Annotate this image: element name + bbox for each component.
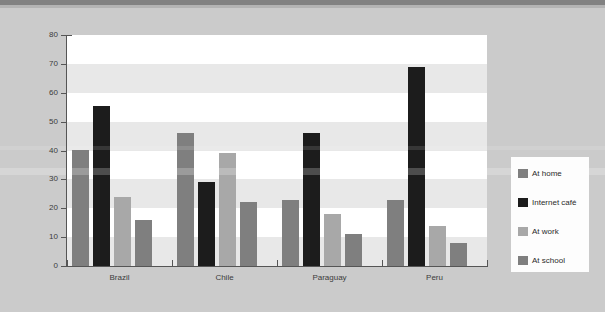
legend-item[interactable]: At school: [518, 254, 565, 266]
y-axis-tick: [61, 179, 67, 180]
bar: [324, 214, 341, 266]
bar: [240, 202, 257, 266]
legend-label: At work: [532, 227, 559, 236]
y-axis-tick-label: 80: [18, 31, 58, 39]
y-axis-tick: [61, 93, 67, 94]
y-axis-tick: [61, 208, 67, 209]
x-axis-category-label: Chile: [172, 273, 277, 282]
legend-swatch-icon: [518, 256, 528, 265]
bar: [408, 67, 425, 266]
legend-label: At school: [532, 256, 565, 265]
chart-figure: 01020304050607080 BrazilChileParaguayPer…: [0, 0, 605, 312]
y-axis-tick-label: 20: [18, 204, 58, 212]
bar: [72, 150, 89, 266]
legend-item[interactable]: Internet café: [518, 196, 576, 208]
bar: [114, 197, 131, 266]
legend-swatch-icon: [518, 169, 528, 178]
legend-item[interactable]: At work: [518, 225, 559, 237]
legend-label: Internet café: [532, 198, 576, 207]
chart-legend: At homeInternet caféAt workAt school: [511, 157, 589, 272]
x-axis-category-label: Peru: [382, 273, 487, 282]
bar: [135, 220, 152, 266]
y-axis-tick: [61, 151, 67, 152]
x-axis-tick: [487, 260, 488, 267]
bar: [93, 106, 110, 266]
y-axis-tick-label: 50: [18, 118, 58, 126]
y-axis-tick: [61, 237, 67, 238]
plot-area: [67, 35, 487, 266]
legend-item[interactable]: At home: [518, 167, 562, 179]
y-axis-tick-label: 40: [18, 147, 58, 155]
top-edge-strip-secondary: [0, 5, 605, 8]
bar: [219, 153, 236, 266]
y-axis-tick-label: 60: [18, 89, 58, 97]
y-axis-tick-label: 30: [18, 175, 58, 183]
y-axis-tick: [61, 122, 67, 123]
bar: [303, 133, 320, 266]
bar: [198, 182, 215, 266]
bar: [429, 226, 446, 266]
legend-swatch-icon: [518, 227, 528, 236]
y-axis-labels: 01020304050607080: [14, 0, 58, 312]
y-axis-tick-label: 70: [18, 60, 58, 68]
bar: [177, 133, 194, 266]
bar: [345, 234, 362, 266]
y-axis-tick-label: 10: [18, 233, 58, 241]
bar: [450, 243, 467, 266]
x-axis-tick: [172, 260, 173, 267]
x-axis-category-label: Brazil: [67, 273, 172, 282]
legend-label: At home: [532, 169, 562, 178]
y-axis-tick: [61, 35, 67, 36]
bar: [282, 200, 299, 266]
y-axis-tick: [61, 64, 67, 65]
legend-swatch-icon: [518, 198, 528, 207]
x-axis-tick: [277, 260, 278, 267]
y-axis-tick-label: 0: [18, 262, 58, 270]
x-axis-category-label: Paraguay: [277, 273, 382, 282]
x-axis-tick: [382, 260, 383, 267]
bar: [387, 200, 404, 266]
x-axis-tick: [67, 260, 68, 267]
